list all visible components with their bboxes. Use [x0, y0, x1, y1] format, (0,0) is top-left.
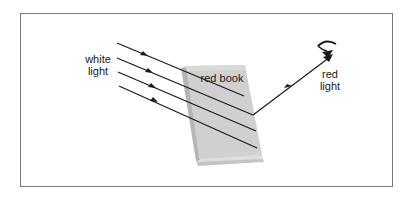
arrow-icon	[284, 84, 292, 88]
book-label: red book	[196, 72, 248, 84]
label-line: white	[80, 53, 116, 65]
light-reflection-diagram	[0, 0, 412, 202]
incident-light-label: white light	[80, 53, 116, 77]
label-line: red	[315, 68, 345, 80]
reflected-light-label: red light	[315, 68, 345, 92]
arrow-icon	[148, 83, 156, 88]
arrow-icon	[150, 97, 158, 102]
label-line: light	[80, 65, 116, 77]
eye-icon	[318, 41, 336, 58]
arrow-icon	[145, 68, 153, 73]
arrow-icon	[140, 51, 148, 56]
label-line: light	[315, 80, 345, 92]
